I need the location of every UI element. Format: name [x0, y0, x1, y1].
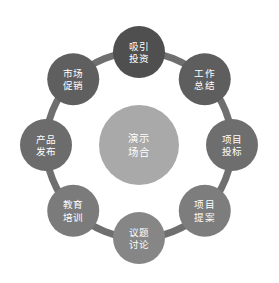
center-node-circle	[99, 105, 179, 185]
cycle-node-circle[interactable]	[113, 26, 165, 78]
cycle-node-circle[interactable]	[47, 53, 99, 105]
cycle-node-project-bidding[interactable]: 项目投标	[206, 119, 258, 171]
cycle-node-market-promotion[interactable]: 市场促销	[47, 53, 99, 105]
cycle-diagram: 吸引投资工作总结项目投标项目提案议题讨论教育培训产品发布市场促销 演示 场合	[0, 0, 279, 283]
cycle-node-label-line2: 促销	[63, 80, 84, 91]
cycle-node-label-line2: 提案	[194, 212, 215, 223]
cycle-node-label-line1: 议题	[129, 227, 150, 238]
cycle-node-label-line2: 培训	[63, 212, 84, 223]
center-node-label-line1: 演示	[128, 132, 150, 144]
cycle-node-label-line2: 总结	[194, 80, 215, 91]
cycle-node-label-line1: 吸引	[129, 41, 150, 52]
cycle-node-topic-discussion[interactable]: 议题讨论	[113, 212, 165, 264]
cycle-node-circle[interactable]	[206, 119, 258, 171]
cycle-node-label-line1: 产品	[36, 134, 57, 145]
cycle-node-label-line2: 讨论	[129, 239, 150, 250]
cycle-node-work-summary[interactable]: 工作总结	[179, 53, 231, 105]
cycle-node-label-line1: 工作	[194, 68, 215, 79]
cycle-node-label-line1: 教育	[63, 199, 84, 210]
cycle-node-label-line2: 投标	[222, 146, 243, 157]
cycle-node-label-line1: 市场	[63, 68, 84, 79]
cycle-node-project-proposal[interactable]: 项目提案	[179, 185, 231, 237]
center-node-label-line2: 场合	[128, 146, 150, 158]
cycle-node-label-line1: 项目	[222, 134, 243, 145]
cycle-node-label-line2: 投资	[129, 53, 150, 64]
cycle-node-label-line2: 发布	[36, 146, 57, 157]
cycle-node-circle[interactable]	[47, 185, 99, 237]
cycle-node-education-training[interactable]: 教育培训	[47, 185, 99, 237]
cycle-node-attract-investment[interactable]: 吸引投资	[113, 26, 165, 78]
cycle-node-circle[interactable]	[113, 212, 165, 264]
cycle-node-circle[interactable]	[20, 119, 72, 171]
cycle-diagram-canvas: 吸引投资工作总结项目投标项目提案议题讨论教育培训产品发布市场促销 演示 场合	[0, 0, 279, 283]
cycle-node-circle[interactable]	[179, 185, 231, 237]
cycle-node-product-release[interactable]: 产品发布	[20, 119, 72, 171]
center-node: 演示 场合	[99, 105, 179, 185]
cycle-node-label-line1: 项目	[194, 199, 215, 210]
cycle-node-circle[interactable]	[179, 53, 231, 105]
